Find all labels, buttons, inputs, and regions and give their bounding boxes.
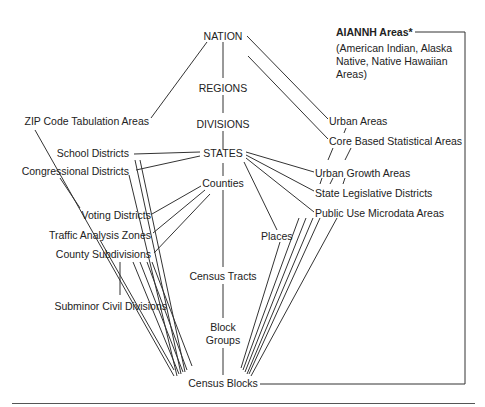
node-census-tracts: Census Tracts [189, 270, 256, 282]
node-subminor-civil-divisions: Subminor Civil Divisions [54, 300, 167, 312]
node-census-blocks: Census Blocks [188, 377, 257, 389]
node-counties: Counties [202, 177, 243, 189]
bottom-rule-right [237, 403, 475, 404]
node-urban-growth-areas: Urban Growth Areas [315, 167, 410, 179]
node-divisions: DIVISIONS [196, 118, 249, 130]
node-voting-districts: Voting Districts [82, 209, 151, 221]
node-zcta: ZIP Code Tabulation Areas [24, 115, 149, 127]
node-state-legislative-districts: State Legislative Districts [315, 187, 432, 199]
node-aiannh: AIANNH Areas* [336, 26, 413, 38]
node-congressional-districts: Congressional Districts [22, 165, 129, 177]
node-cbsa: Core Based Statistical Areas [329, 135, 462, 147]
node-states: STATES [203, 147, 242, 159]
aiannh-note: (American Indian, Alaska Native, Native … [336, 42, 466, 81]
node-block-groups-line2: Groups [206, 334, 240, 346]
node-traffic-analysis-zones: Traffic Analysis Zones [49, 229, 151, 241]
node-nation: NATION [204, 30, 243, 42]
node-puma: Public Use Microdata Areas [315, 207, 444, 219]
node-urban-areas: Urban Areas [329, 115, 387, 127]
node-school-districts: School Districts [57, 147, 129, 159]
bottom-rule [12, 403, 237, 404]
node-block-groups-line1: Block [210, 321, 236, 333]
node-county-subdivisions: County Subdivisions [56, 248, 151, 260]
node-regions: REGIONS [199, 82, 247, 94]
node-places: Places [261, 230, 293, 242]
